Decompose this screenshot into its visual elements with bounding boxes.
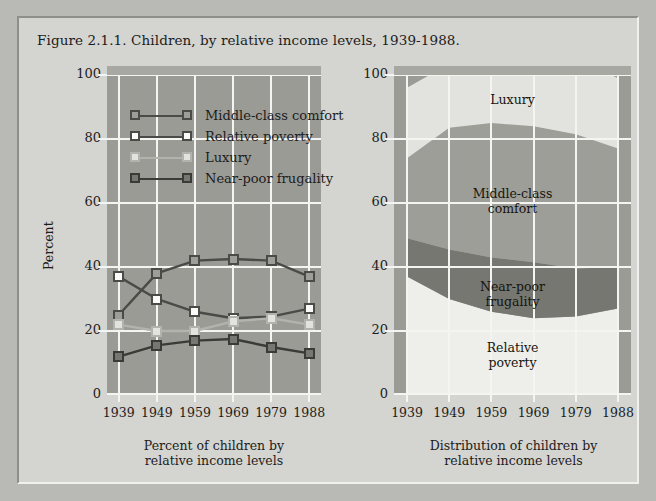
y-tick-mark: [385, 74, 394, 76]
data-point-marker: [151, 340, 162, 351]
panel-line-chart: Percent 020406080100 1939194919591969197…: [19, 18, 331, 482]
gridline-horizontal: [394, 330, 631, 332]
x-tick-mark: [617, 395, 619, 402]
line-series: [119, 318, 309, 331]
figure-inner: Figure 2.1.1. Children, by relative inco…: [19, 18, 637, 482]
area-band-label-line-2: poverty: [487, 355, 539, 370]
y-tick-mark: [98, 330, 107, 332]
y-tick-label: 20: [354, 322, 388, 337]
y-tick-label: 40: [67, 258, 101, 273]
x-tick-label: 1959: [174, 405, 216, 420]
right-axis-caption: Distribution of children by relative inc…: [391, 438, 636, 469]
x-tick-label: 1988: [597, 405, 639, 420]
x-tick-mark: [575, 395, 577, 402]
x-tick-mark: [194, 395, 196, 402]
area-band-label: Luxury: [490, 92, 535, 107]
y-tick-mark: [98, 266, 107, 268]
area-band-label: Middle-classcomfort: [473, 186, 553, 216]
legend-marker-swatch: [130, 173, 140, 183]
x-tick-label: 1959: [470, 405, 512, 420]
right-plot-area: LuxuryMiddle-classcomfortNear-poorfrugal…: [394, 75, 631, 395]
x-tick-label: 1939: [386, 405, 428, 420]
legend-label: Near-poor frugality: [205, 171, 333, 186]
data-point-marker: [228, 254, 239, 265]
x-tick-mark: [533, 395, 535, 402]
figure-frame: Figure 2.1.1. Children, by relative inco…: [17, 16, 639, 484]
x-tick-label: 1949: [428, 405, 470, 420]
y-tick-label: 40: [354, 258, 388, 273]
gridline-vertical: [406, 75, 408, 395]
legend-label: Middle-class comfort: [205, 108, 344, 123]
right-caption-line-2: relative income levels: [391, 453, 636, 468]
y-tick-label: 100: [354, 66, 388, 81]
left-caption-line-1: Percent of children by: [94, 438, 334, 453]
area-band-label-line-2: comfort: [473, 201, 553, 216]
data-point-marker: [151, 326, 162, 337]
y-tick-mark: [98, 74, 107, 76]
x-tick-mark: [308, 395, 310, 402]
area-band-label-line-1: Middle-class: [473, 186, 553, 201]
data-point-marker: [113, 319, 124, 330]
data-point-marker: [189, 255, 200, 266]
y-tick-label: 0: [354, 386, 388, 401]
data-point-marker: [189, 335, 200, 346]
area-band-label: Near-poorfrugality: [480, 279, 545, 309]
y-tick-label: 80: [67, 130, 101, 145]
data-point-marker: [266, 342, 277, 353]
left-top-band: [107, 66, 321, 75]
y-tick-mark: [385, 266, 394, 268]
legend-line-sample: [135, 136, 187, 138]
gridline-vertical: [617, 75, 619, 395]
gridline-horizontal: [394, 266, 631, 268]
x-tick-mark: [118, 395, 120, 402]
line-series: [119, 339, 309, 357]
line-series: [119, 259, 309, 315]
gridline-horizontal: [394, 138, 631, 140]
legend-line-sample: [135, 178, 187, 180]
y-tick-label: 100: [67, 66, 101, 81]
left-caption-line-2: relative income levels: [94, 453, 334, 468]
right-top-band: [394, 66, 631, 75]
legend-marker-swatch: [182, 173, 192, 183]
data-point-marker: [304, 348, 315, 359]
data-point-marker: [189, 306, 200, 317]
data-point-marker: [304, 319, 315, 330]
x-tick-label: 1988: [288, 405, 330, 420]
data-point-marker: [266, 255, 277, 266]
gridline-vertical: [448, 75, 450, 395]
legend-marker-swatch: [130, 152, 140, 162]
data-point-marker: [228, 334, 239, 345]
data-point-marker: [304, 271, 315, 282]
legend-line-sample: [135, 157, 187, 159]
y-tick-mark: [98, 202, 107, 204]
x-tick-mark: [406, 395, 408, 402]
axis-baseline: [394, 393, 631, 395]
x-tick-label: 1969: [212, 405, 254, 420]
panel-area-chart: LuxuryMiddle-classcomfortNear-poorfrugal…: [331, 18, 637, 482]
data-point-marker: [228, 316, 239, 327]
y-tick-mark: [385, 330, 394, 332]
y-tick-mark: [98, 138, 107, 140]
data-point-marker: [304, 303, 315, 314]
x-tick-mark: [156, 395, 158, 402]
data-point-marker: [266, 313, 277, 324]
legend-marker-swatch: [182, 152, 192, 162]
gridline-horizontal: [394, 75, 631, 76]
legend-label: Luxury: [205, 150, 251, 165]
legend-marker-swatch: [182, 131, 192, 141]
legend-label: Relative poverty: [205, 129, 313, 144]
x-tick-label: 1969: [513, 405, 555, 420]
legend-line-sample: [135, 115, 187, 117]
area-band-label-line-1: Near-poor: [480, 279, 545, 294]
area-band-label-line-1: Relative: [487, 340, 539, 355]
y-tick-label: 0: [67, 386, 101, 401]
x-tick-mark: [490, 395, 492, 402]
x-tick-mark: [270, 395, 272, 402]
y-tick-label: 60: [67, 194, 101, 209]
x-tick-label: 1949: [136, 405, 178, 420]
x-tick-mark: [448, 395, 450, 402]
area-band-label-line-2: frugality: [480, 294, 545, 309]
right-caption-line-1: Distribution of children by: [391, 438, 636, 453]
legend-marker-swatch: [130, 131, 140, 141]
left-plot-area: [107, 75, 321, 395]
